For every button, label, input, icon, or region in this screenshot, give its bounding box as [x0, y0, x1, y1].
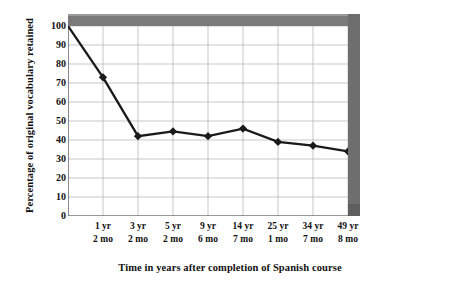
y-tick-label: 60	[56, 97, 66, 107]
data-point	[239, 124, 247, 132]
x-tick-years: 9 yr	[198, 220, 218, 233]
chart-frame-top-bevel	[68, 14, 360, 16]
y-axis-title: Percentage of original vocabulary retain…	[24, 11, 35, 221]
line-chart-svg	[68, 26, 348, 216]
chart-frame-right	[348, 14, 360, 216]
x-tick-years: 25 yr	[268, 220, 289, 233]
x-tick-label: 5 yr2 mo	[163, 220, 183, 245]
y-tick-label: 50	[56, 116, 66, 126]
grid-lines	[68, 26, 348, 216]
x-tick-label: 25 yr1 mo	[268, 220, 289, 245]
x-tick-years: 14 yr	[233, 220, 254, 233]
y-tick-label: 0	[61, 211, 66, 221]
x-tick-label: 49 yr8 mo	[338, 220, 359, 245]
x-tick-years: 3 yr	[128, 220, 148, 233]
chart-frame-corner	[348, 204, 360, 216]
x-axis-tick-labels: 1 yr2 mo3 yr2 mo5 yr2 mo9 yr6 mo14 yr7 m…	[68, 220, 360, 252]
y-tick-label: 10	[56, 192, 66, 202]
x-tick-months: 2 mo	[128, 233, 148, 246]
x-tick-label: 14 yr7 mo	[233, 220, 254, 245]
y-axis-tick-labels: 0102030405060708090100	[38, 18, 66, 218]
x-tick-years: 5 yr	[163, 220, 183, 233]
y-tick-label: 80	[56, 59, 66, 69]
x-tick-months: 7 mo	[233, 233, 254, 246]
y-tick-label: 40	[56, 135, 66, 145]
chart-figure: Percentage of original vocabulary retain…	[0, 0, 460, 286]
x-tick-months: 2 mo	[163, 233, 183, 246]
x-axis-title: Time in years after completion of Spanis…	[0, 262, 460, 273]
y-tick-label: 20	[56, 173, 66, 183]
data-point	[309, 142, 317, 150]
y-tick-label: 100	[51, 21, 66, 31]
x-tick-months: 7 mo	[303, 233, 324, 246]
x-tick-label: 1 yr2 mo	[93, 220, 113, 245]
y-tick-label: 90	[56, 40, 66, 50]
data-point	[274, 138, 282, 146]
x-tick-label: 34 yr7 mo	[303, 220, 324, 245]
x-tick-label: 3 yr2 mo	[128, 220, 148, 245]
plot-area	[68, 26, 348, 216]
x-tick-months: 8 mo	[338, 233, 359, 246]
y-tick-label: 70	[56, 78, 66, 88]
x-tick-years: 34 yr	[303, 220, 324, 233]
data-point	[204, 132, 212, 140]
x-tick-years: 49 yr	[338, 220, 359, 233]
x-tick-months: 1 mo	[268, 233, 289, 246]
x-tick-years: 1 yr	[93, 220, 113, 233]
data-markers	[99, 73, 348, 155]
data-point	[344, 147, 348, 155]
x-tick-months: 6 mo	[198, 233, 218, 246]
x-tick-months: 2 mo	[93, 233, 113, 246]
x-tick-label: 9 yr6 mo	[198, 220, 218, 245]
data-point	[169, 127, 177, 135]
y-tick-label: 30	[56, 154, 66, 164]
